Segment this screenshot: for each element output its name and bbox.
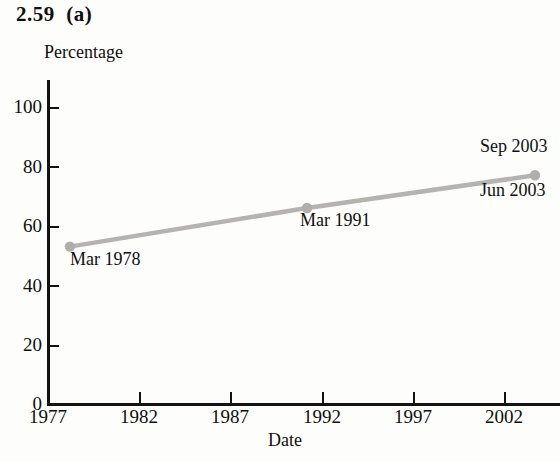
figure-container: 2.59 (a) Percentage 100 80 60 40 20 0 19… [0, 0, 560, 462]
plot-area: 100 80 60 40 20 0 1977 1982 1987 1992 19… [0, 0, 560, 462]
point-label-jun-2003: Jun 2003 [480, 180, 546, 201]
data-point-marker [530, 170, 540, 180]
data-series-svg [0, 0, 560, 462]
point-label-sep-2003: Sep 2003 [480, 136, 548, 157]
x-axis-title-text: Date [268, 430, 302, 450]
x-axis-title: Date [0, 430, 560, 451]
point-label-mar-1991: Mar 1991 [300, 210, 371, 231]
point-label-mar-1978: Mar 1978 [70, 249, 141, 270]
